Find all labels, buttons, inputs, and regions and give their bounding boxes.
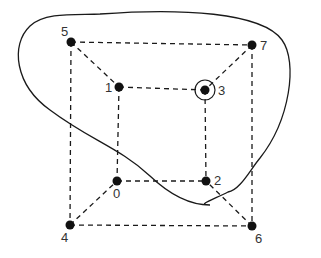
vertex-6 — [248, 222, 257, 231]
vertex-label-0: 0 — [113, 186, 120, 201]
edges-group — [70, 42, 252, 226]
edge-6-2 — [206, 181, 252, 226]
cube-graph-diagram: 01234567 — [0, 0, 321, 258]
vertex-label-4: 4 — [61, 230, 68, 245]
edge-5-7 — [71, 42, 252, 45]
edge-1-3 — [119, 87, 205, 90]
edge-1-0 — [117, 87, 119, 181]
vertex-3 — [201, 86, 210, 95]
labels-group: 01234567 — [61, 24, 267, 246]
vertices-group — [66, 38, 257, 231]
enclosing-curve — [18, 12, 290, 205]
edge-3-2 — [205, 90, 206, 181]
vertex-label-7: 7 — [260, 38, 267, 53]
vertex-label-1: 1 — [105, 80, 112, 95]
edge-4-0 — [70, 181, 117, 225]
edge-5-4 — [70, 42, 71, 225]
vertex-label-3: 3 — [218, 83, 225, 98]
edge-4-6 — [70, 225, 252, 226]
vertex-0 — [113, 177, 122, 186]
vertex-4 — [66, 221, 75, 230]
vertex-label-5: 5 — [61, 24, 68, 39]
vertex-label-2: 2 — [214, 173, 221, 188]
vertex-label-6: 6 — [255, 231, 262, 246]
vertex-7 — [248, 41, 257, 50]
vertex-2 — [202, 177, 211, 186]
vertex-1 — [115, 83, 124, 92]
